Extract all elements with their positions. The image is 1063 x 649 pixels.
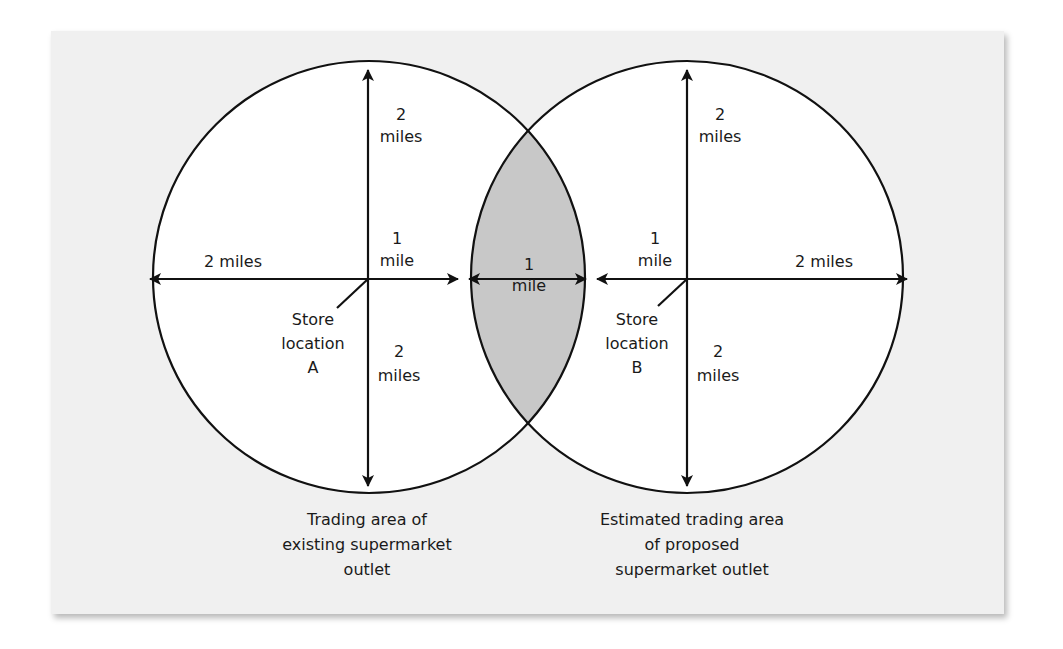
store-location-a-label: Store location A	[281, 308, 344, 380]
overlap-distance-label: 1 mile	[512, 254, 546, 296]
left-top-distance-label: 2 miles	[380, 104, 423, 148]
right-west-distance-label: 1 mile	[638, 228, 672, 272]
store-location-b-label: Store location B	[605, 308, 668, 380]
proposed-outlet-caption: Estimated trading area of proposed super…	[600, 507, 784, 582]
right-east-distance-label: 2 miles	[795, 251, 853, 273]
left-east-distance-label: 1 mile	[380, 228, 414, 272]
trading-area-diagram	[0, 0, 1063, 649]
left-west-distance-label: 2 miles	[204, 251, 262, 273]
left-bottom-distance-label: 2 miles	[378, 340, 421, 388]
right-bottom-distance-label: 2 miles	[697, 340, 740, 388]
right-top-distance-label: 2 miles	[699, 104, 742, 148]
existing-outlet-caption: Trading area of existing supermarket out…	[282, 507, 451, 582]
